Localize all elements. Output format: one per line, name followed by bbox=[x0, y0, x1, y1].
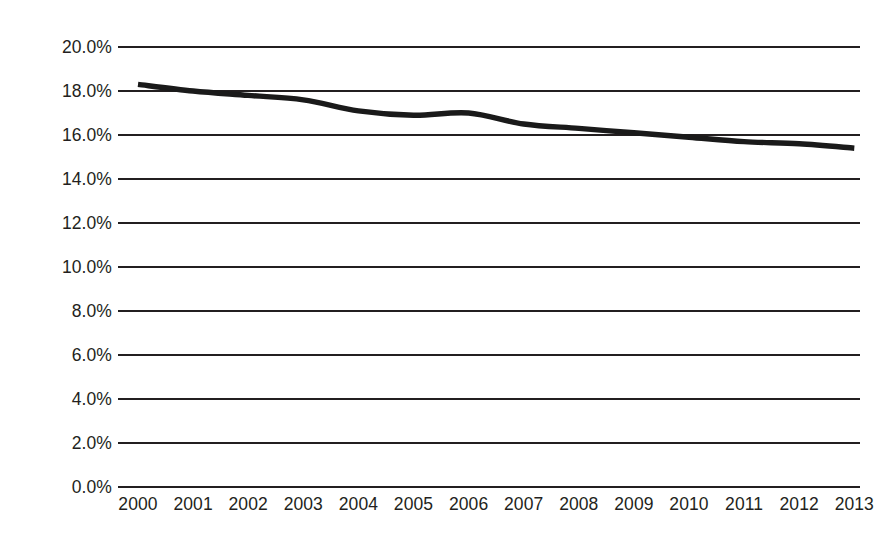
x-tick-label: 2003 bbox=[284, 494, 323, 515]
x-tick-label: 2009 bbox=[614, 494, 653, 515]
line-chart: 0.0%2.0%4.0%6.0%8.0%10.0%12.0%14.0%16.0%… bbox=[0, 0, 896, 555]
x-tick-label: 2005 bbox=[394, 494, 433, 515]
x-tick-label: 2006 bbox=[449, 494, 488, 515]
x-axis: 2000200120022003200420052006200720082009… bbox=[0, 0, 896, 555]
x-tick-label: 2012 bbox=[780, 494, 819, 515]
x-tick-label: 2000 bbox=[118, 494, 157, 515]
x-tick-label: 2008 bbox=[559, 494, 598, 515]
x-tick-label: 2013 bbox=[835, 494, 874, 515]
x-tick-label: 2011 bbox=[725, 494, 763, 515]
x-tick-label: 2004 bbox=[339, 494, 378, 515]
x-tick-label: 2010 bbox=[669, 494, 708, 515]
x-tick-label: 2007 bbox=[504, 494, 543, 515]
x-tick-label: 2001 bbox=[173, 494, 212, 515]
x-tick-label: 2002 bbox=[229, 494, 268, 515]
